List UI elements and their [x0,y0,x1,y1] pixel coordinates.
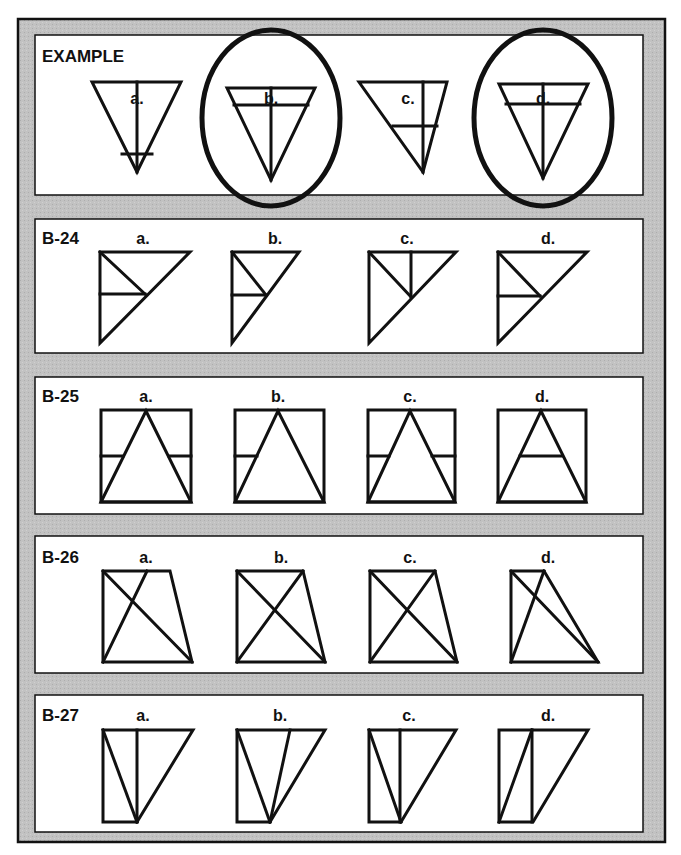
option-label: b. [274,549,288,566]
problem-title: B-27 [42,706,79,725]
problem-title: B-26 [42,548,79,567]
option-label: b. [268,230,282,247]
option-label: a. [139,388,152,405]
option-label: b. [273,707,287,724]
panel-background [35,377,643,514]
option-label: c. [401,90,414,107]
option-label: c. [400,230,413,247]
option-label: d. [541,707,555,724]
problem-title: B-25 [42,387,79,406]
option-label: c. [402,707,415,724]
option-label: a. [136,707,149,724]
problem-title: EXAMPLE [42,47,124,66]
option-label: d. [541,549,555,566]
option-label: a. [139,549,152,566]
option-label: d. [535,388,549,405]
option-label: b. [271,388,285,405]
option-label: c. [403,549,416,566]
option-label: a. [136,230,149,247]
problem-title: B-24 [42,229,79,248]
option-label: d. [541,230,555,247]
problem-panel-b-25: B-25 [35,377,643,514]
option-label: c. [403,388,416,405]
worksheet-page: EXAMPLEB-24B-25B-26B-27 a.b.c.d.a.b.c.d.… [0,0,681,855]
